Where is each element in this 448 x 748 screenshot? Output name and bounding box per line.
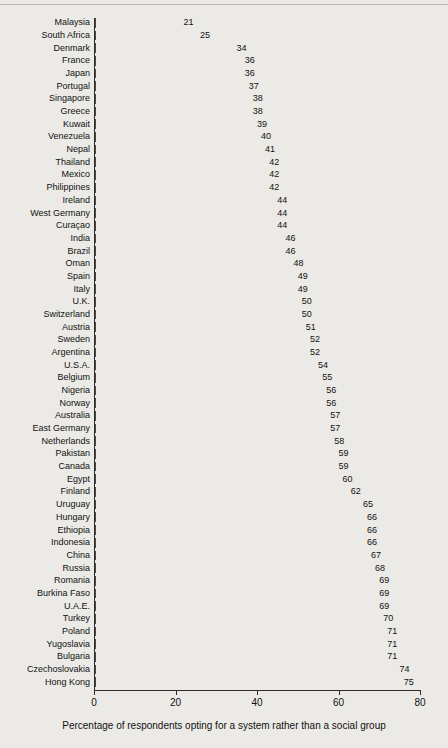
bar <box>94 18 180 28</box>
bar-value-label: 56 <box>326 386 336 395</box>
category-label: Denmark <box>0 44 90 53</box>
category-label: India <box>0 234 90 243</box>
category-label: East Germany <box>0 424 90 433</box>
bar <box>94 272 294 282</box>
bar-value-label: 62 <box>351 487 361 496</box>
bar <box>94 322 302 332</box>
x-tick-mark <box>420 690 421 695</box>
category-label: Uruguay <box>0 500 90 509</box>
x-tick-label: 40 <box>237 698 277 708</box>
category-label: Italy <box>0 285 90 294</box>
category-label: U.K. <box>0 297 90 306</box>
category-label: Ireland <box>0 196 90 205</box>
bar <box>94 462 334 472</box>
x-tick-label: 20 <box>156 698 196 708</box>
bar <box>94 119 253 129</box>
category-label: Belgium <box>0 373 90 382</box>
bar <box>94 487 347 497</box>
bar <box>94 259 290 269</box>
bar <box>94 196 273 206</box>
category-label: Netherlands <box>0 437 90 446</box>
bar <box>94 107 249 117</box>
category-label: France <box>0 56 90 65</box>
bar <box>94 411 326 421</box>
bar <box>94 145 261 155</box>
bar <box>94 563 371 573</box>
x-tick-label: 80 <box>400 698 440 708</box>
category-label: Oman <box>0 259 90 268</box>
bar <box>94 335 306 345</box>
category-label: Burkina Faso <box>0 589 90 598</box>
bar-value-label: 57 <box>330 411 340 420</box>
category-label: Russia <box>0 564 90 573</box>
bar <box>94 551 367 561</box>
bar-value-label: 60 <box>343 475 353 484</box>
category-label: Bulgaria <box>0 652 90 661</box>
category-label: Sweden <box>0 335 90 344</box>
bar-value-label: 57 <box>330 424 340 433</box>
bar-value-label: 40 <box>261 132 271 141</box>
category-label: West Germany <box>0 209 90 218</box>
bar-value-label: 56 <box>326 399 336 408</box>
bar <box>94 246 281 256</box>
bar <box>94 525 363 535</box>
bar <box>94 386 322 396</box>
category-label: Brazil <box>0 247 90 256</box>
horizontal-bar-chart: Malaysia21South Africa25Denmark34France3… <box>0 0 448 748</box>
bar-value-label: 46 <box>285 234 295 243</box>
category-label: Australia <box>0 411 90 420</box>
bar-value-label: 52 <box>310 335 320 344</box>
bar <box>94 589 375 599</box>
x-tick-mark <box>176 690 177 695</box>
category-label: Spain <box>0 272 90 281</box>
bar-value-label: 49 <box>298 272 308 281</box>
bar <box>94 601 375 611</box>
bar <box>94 94 249 104</box>
category-label: Singapore <box>0 94 90 103</box>
bar-value-label: 71 <box>387 652 397 661</box>
category-label: Hungary <box>0 513 90 522</box>
bar <box>94 183 265 193</box>
category-label: Romania <box>0 576 90 585</box>
category-label: Czechoslovakia <box>0 665 90 674</box>
bar-value-label: 49 <box>298 285 308 294</box>
bar <box>94 474 339 484</box>
bar-value-label: 66 <box>367 513 377 522</box>
bar <box>94 360 314 370</box>
category-label: Yugoslavia <box>0 640 90 649</box>
category-label: Nepal <box>0 145 90 154</box>
category-label: Argentina <box>0 348 90 357</box>
category-label: China <box>0 551 90 560</box>
bar-value-label: 75 <box>404 678 414 687</box>
bar <box>94 500 359 510</box>
bar <box>94 665 396 675</box>
bar-value-label: 42 <box>269 183 279 192</box>
category-label: Hong Kong <box>0 678 90 687</box>
bar <box>94 69 241 79</box>
bar <box>94 512 363 522</box>
bar-value-label: 38 <box>253 107 263 116</box>
category-label: Mexico <box>0 170 90 179</box>
bar-value-label: 59 <box>338 462 348 471</box>
bar-value-label: 70 <box>383 614 393 623</box>
bar-value-label: 34 <box>237 44 247 53</box>
bar <box>94 31 196 41</box>
bar <box>94 424 326 434</box>
x-tick-mark <box>94 690 95 695</box>
bar-value-label: 21 <box>184 18 194 27</box>
category-label: Thailand <box>0 158 90 167</box>
bar-value-label: 25 <box>200 31 210 40</box>
category-label: Pakistan <box>0 449 90 458</box>
bar-value-label: 44 <box>277 196 287 205</box>
bar <box>94 56 241 66</box>
bar-value-label: 42 <box>269 158 279 167</box>
category-label: Curaçao <box>0 221 90 230</box>
category-label: Malaysia <box>0 18 90 27</box>
category-label: Canada <box>0 462 90 471</box>
bar-value-label: 51 <box>306 323 316 332</box>
bar-value-label: 39 <box>257 120 267 129</box>
bar-value-label: 36 <box>245 56 255 65</box>
category-label: South Africa <box>0 31 90 40</box>
x-tick-mark <box>257 690 258 695</box>
bar-value-label: 38 <box>253 94 263 103</box>
